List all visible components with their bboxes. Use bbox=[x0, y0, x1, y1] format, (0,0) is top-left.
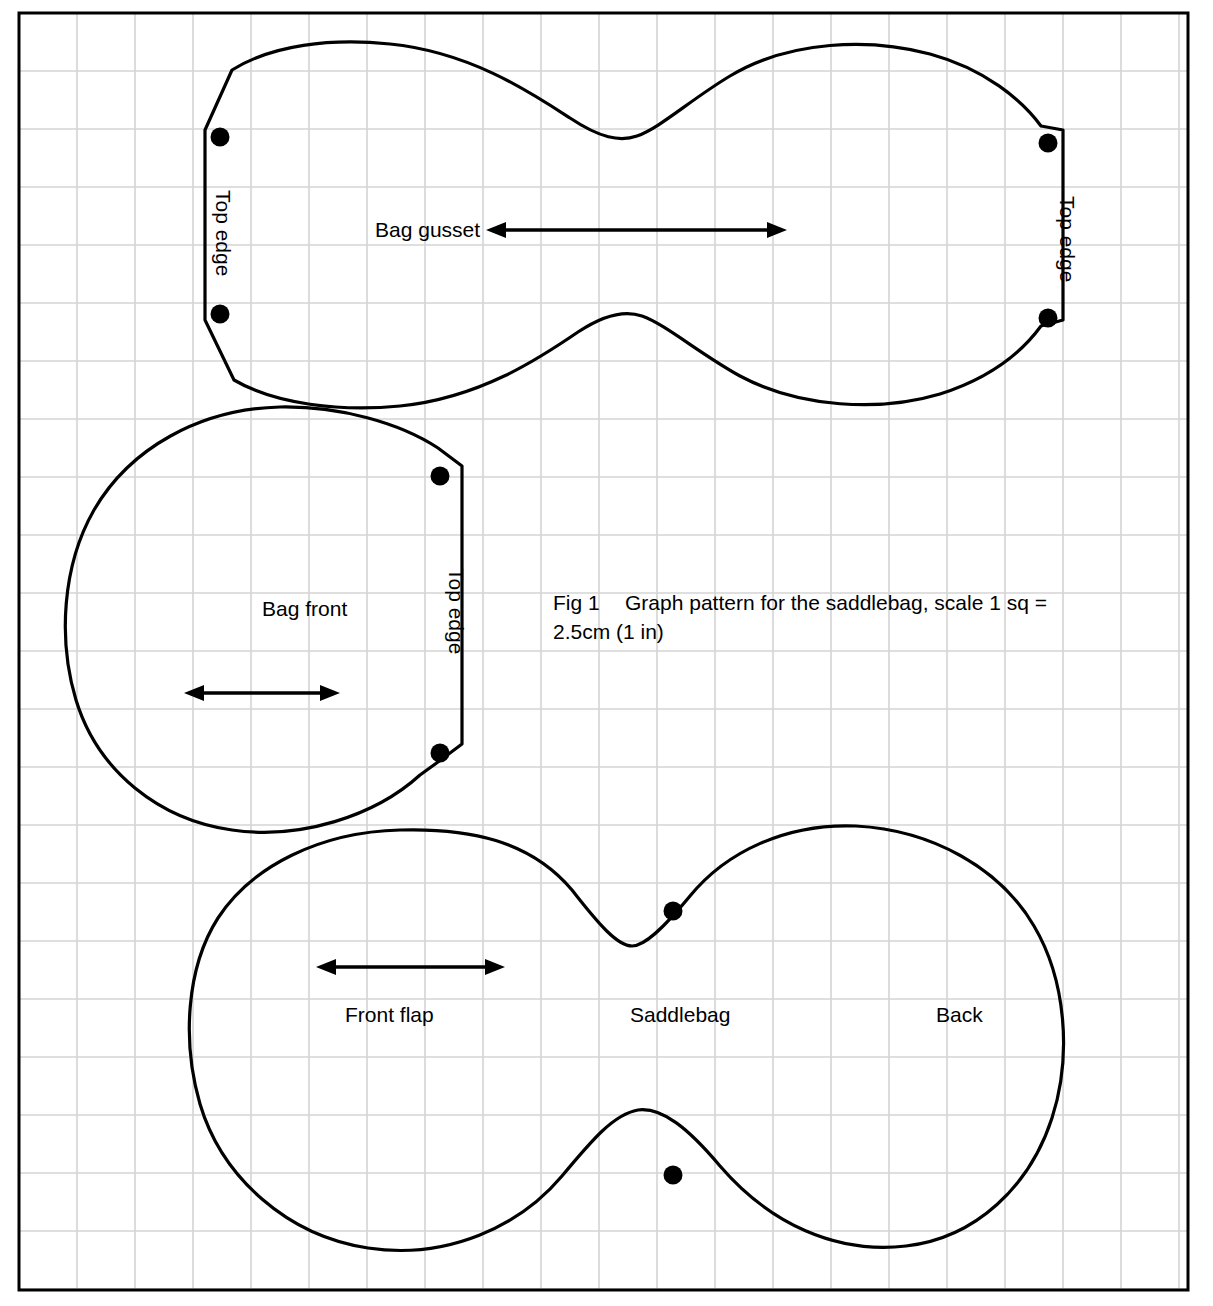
gusset-dot-top-right bbox=[1039, 134, 1058, 153]
figure-page: Bag gusset Top edge Top edge Bag front T… bbox=[0, 0, 1213, 1306]
gusset-dot-bottom-right bbox=[1039, 309, 1058, 328]
gusset-dot-top-left bbox=[211, 128, 230, 147]
bag-front-label: Bag front bbox=[262, 597, 347, 620]
saddlebag-dot-bottom bbox=[664, 1166, 683, 1185]
gusset-top-edge-label-right: Top edge bbox=[1056, 196, 1079, 282]
saddlebag-back-label: Back bbox=[936, 1003, 983, 1026]
caption-line-2: 2.5cm (1 in) bbox=[553, 620, 664, 643]
bag-front-dot-top bbox=[431, 467, 450, 486]
saddlebag-label: Saddlebag bbox=[630, 1003, 730, 1026]
bag-front-dot-bottom bbox=[431, 744, 450, 763]
pattern-diagram: Bag gusset Top edge Top edge Bag front T… bbox=[0, 0, 1213, 1306]
caption-fig-number: Fig 1 bbox=[553, 591, 600, 614]
caption-line-1: Graph pattern for the saddlebag, scale 1… bbox=[625, 591, 1047, 614]
gusset-top-edge-label-left: Top edge bbox=[212, 190, 235, 276]
saddlebag-front-flap-label: Front flap bbox=[345, 1003, 434, 1026]
bag-front-top-edge-label: Top edge bbox=[445, 568, 468, 654]
gusset-dot-bottom-left bbox=[211, 305, 230, 324]
bag-gusset-label: Bag gusset bbox=[375, 218, 480, 241]
page-background bbox=[0, 0, 1213, 1306]
saddlebag-dot-top bbox=[664, 902, 683, 921]
